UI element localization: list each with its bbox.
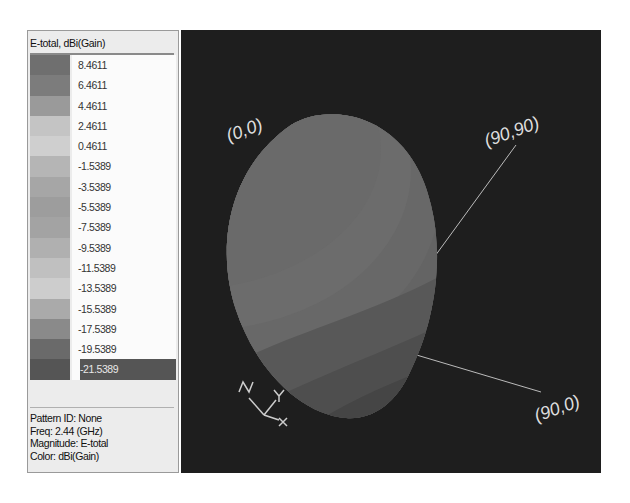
color-text: Color: dBi(Gain) (30, 450, 174, 463)
legend-value: 4.4611 (72, 96, 176, 116)
row-gap (72, 359, 80, 379)
color-swatch (30, 319, 70, 339)
legend-value: -17.5389 (72, 319, 176, 339)
pattern-id-text: Pattern ID: None (30, 412, 174, 425)
legend-row[interactable]: -19.5389 (30, 339, 176, 359)
legend-row[interactable]: 4.4611 (30, 96, 176, 116)
legend-value: -13.5389 (72, 278, 176, 298)
color-swatch (30, 116, 70, 136)
color-swatch (30, 136, 70, 156)
legend-value: 2.4611 (72, 116, 176, 136)
color-swatch (30, 258, 70, 278)
color-swatch (30, 299, 70, 319)
color-swatch (30, 359, 70, 379)
axes-triad-icon (239, 382, 287, 426)
legend-value: 8.4611 (72, 55, 176, 75)
legend-row[interactable]: 6.4611 (30, 75, 176, 95)
pattern-window: E-total, dBi(Gain) 8.46116.46114.46112.4… (27, 30, 601, 473)
legend-row[interactable]: 8.4611 (30, 55, 176, 75)
legend-row[interactable]: -13.5389 (30, 278, 176, 298)
label-90-0: (90,0) (532, 391, 583, 426)
color-swatch (30, 75, 70, 95)
legend-value: -3.5389 (72, 177, 176, 197)
label-90-90: (90,90) (482, 112, 542, 150)
magnitude-text: Magnitude: E-total (30, 437, 174, 450)
legend-value: -7.5389 (72, 217, 176, 237)
legend-panel: E-total, dBi(Gain) 8.46116.46114.46112.4… (27, 30, 179, 473)
legend-row[interactable]: -15.5389 (30, 299, 176, 319)
legend-row[interactable]: 2.4611 (30, 116, 176, 136)
legend-value: -15.5389 (72, 299, 176, 319)
color-swatch (30, 55, 70, 75)
legend-value: -19.5389 (72, 339, 176, 359)
legend-row[interactable]: -5.5389 (30, 197, 176, 217)
color-swatch (30, 238, 70, 258)
legend-list[interactable]: 8.46116.46114.46112.46110.4611-1.5389-3.… (30, 55, 176, 380)
legend-value: -5.5389 (72, 197, 176, 217)
legend-row[interactable]: -3.5389 (30, 177, 176, 197)
legend-value: -1.5389 (72, 156, 176, 176)
legend-row[interactable]: 0.4611 (30, 136, 176, 156)
legend-row[interactable]: -7.5389 (30, 217, 176, 237)
color-swatch (30, 339, 70, 359)
legend-row[interactable]: -11.5389 (30, 258, 176, 278)
color-swatch (30, 156, 70, 176)
legend-value: -21.5389 (80, 359, 176, 379)
legend-row[interactable]: -17.5389 (30, 319, 176, 339)
color-swatch (30, 96, 70, 116)
legend-value: -9.5389 (72, 238, 176, 258)
legend-row[interactable]: -9.5389 (30, 238, 176, 258)
legend-value: 6.4611 (72, 75, 176, 95)
legend-title: E-total, dBi(Gain) (30, 33, 174, 53)
legend-value: 0.4611 (72, 136, 176, 156)
color-swatch (30, 177, 70, 197)
color-swatch (30, 197, 70, 217)
3d-plot-canvas[interactable]: (0,0) (90,90) (90,0) (181, 30, 601, 473)
legend-row[interactable]: -1.5389 (30, 156, 176, 176)
color-swatch (30, 278, 70, 298)
legend-row[interactable]: -21.5389 (30, 359, 176, 379)
label-origin: (0,0) (224, 114, 266, 145)
legend-value: -11.5389 (72, 258, 176, 278)
pattern-info: Pattern ID: None Freq: 2.44 (GHz) Magnit… (30, 407, 174, 462)
3d-pattern-view[interactable]: (0,0) (90,90) (90,0) (181, 30, 601, 473)
freq-text: Freq: 2.44 (GHz) (30, 425, 174, 438)
color-swatch (30, 217, 70, 237)
